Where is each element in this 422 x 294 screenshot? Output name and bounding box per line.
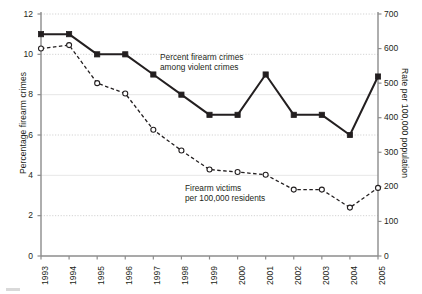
- x-axis-tick-label: 1997: [152, 266, 162, 294]
- data-point-marker: [319, 112, 324, 117]
- x-axis-tick-label: 1998: [180, 266, 190, 294]
- tick-mark-group: [38, 14, 382, 260]
- x-axis-tick-label: 1995: [96, 266, 106, 294]
- data-point-marker: [67, 43, 72, 48]
- data-point-marker: [151, 72, 156, 77]
- x-axis-tick-label: 2002: [293, 266, 303, 294]
- annotation-line-2: among violent crimes: [160, 62, 243, 72]
- series-line-percent-firearm-crimes: [38, 32, 380, 138]
- data-point-marker: [319, 187, 324, 192]
- x-axis-tick-label: 1994: [68, 266, 78, 294]
- x-axis-tick-label: 2004: [349, 266, 359, 294]
- data-point-marker: [38, 32, 43, 37]
- y-axis-left-tick-label: 10: [11, 49, 33, 59]
- annotation-percent-firearm-crimes: Percent firearm crimes among violent cri…: [160, 52, 243, 72]
- annotation-line-1: Firearm victims: [185, 183, 265, 193]
- y-axis-left-tick-label: 2: [11, 210, 33, 220]
- figure-container: Percentage firearm crimes Rate per 100,0…: [0, 0, 422, 294]
- annotation-firearm-victims: Firearm victims per 100,000 residents: [185, 183, 265, 203]
- data-point-marker: [235, 169, 240, 174]
- y-axis-right-tick-label: 400: [384, 112, 410, 122]
- x-axis-tick-label: 2000: [237, 266, 247, 294]
- data-point-marker: [95, 81, 100, 86]
- caption-rule-fragment: [6, 288, 20, 291]
- data-point-marker: [66, 32, 71, 37]
- data-point-marker: [207, 167, 212, 172]
- data-point-marker: [263, 72, 268, 77]
- y-axis-right-tick-label: 600: [384, 43, 410, 53]
- data-point-marker: [347, 205, 352, 210]
- y-axis-left-tick-label: 4: [11, 170, 33, 180]
- x-axis-tick-label: 1993: [40, 266, 50, 294]
- x-axis-tick-label: 2005: [377, 266, 387, 294]
- data-point-marker: [376, 185, 381, 190]
- axis-line-group: [41, 12, 378, 256]
- data-point-marker: [207, 112, 212, 117]
- y-axis-right-tick-label: 300: [384, 147, 410, 157]
- data-point-marker: [123, 91, 128, 96]
- data-point-marker: [95, 52, 100, 57]
- data-point-marker: [291, 187, 296, 192]
- y-axis-right-tick-label: 200: [384, 181, 410, 191]
- y-axis-right-title: Rate per 100,000 population: [400, 48, 410, 198]
- y-axis-left-tick-label: 8: [11, 89, 33, 99]
- data-point-marker: [179, 148, 184, 153]
- chart-plot-area: [0, 0, 422, 294]
- y-axis-right-tick-label: 0: [384, 251, 410, 261]
- data-point-marker: [123, 52, 128, 57]
- data-point-marker: [291, 112, 296, 117]
- x-axis-tick-label: 2003: [321, 266, 331, 294]
- y-axis-right-tick-label: 500: [384, 78, 410, 88]
- x-axis-tick-label: 2001: [265, 266, 275, 294]
- data-point-marker: [39, 46, 44, 51]
- data-point-marker: [235, 112, 240, 117]
- series-path: [41, 34, 378, 135]
- x-axis-tick-label: 1999: [209, 266, 219, 294]
- y-axis-left-tick-label: 12: [11, 9, 33, 19]
- annotation-line-1: Percent firearm crimes: [160, 52, 243, 62]
- y-axis-left-tick-label: 6: [11, 130, 33, 140]
- data-point-marker: [375, 74, 380, 79]
- data-point-marker: [179, 92, 184, 97]
- y-axis-right-tick-label: 100: [384, 216, 410, 226]
- y-axis-right-tick-label: 700: [384, 9, 410, 19]
- data-point-marker: [263, 172, 268, 177]
- data-point-marker: [151, 127, 156, 132]
- y-axis-left-tick-label: 0: [11, 251, 33, 261]
- annotation-line-2: per 100,000 residents: [185, 193, 265, 203]
- data-point-marker: [347, 132, 352, 137]
- x-axis-tick-label: 1996: [124, 266, 134, 294]
